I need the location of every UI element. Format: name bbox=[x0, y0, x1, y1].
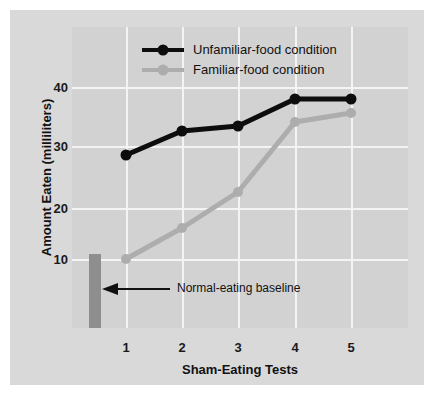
legend-item-familiar: Familiar-food condition bbox=[142, 62, 337, 77]
x-axis-tick-label: 5 bbox=[336, 340, 366, 355]
x-axis-tick-label: 4 bbox=[280, 340, 310, 355]
figure-panel: Amount Eaten (milliliters) 40 30 20 10 1… bbox=[10, 10, 424, 385]
x-axis-tick-label: 2 bbox=[167, 340, 197, 355]
x-axis-tick-label: 1 bbox=[111, 340, 141, 355]
legend-label-unfamiliar: Unfamiliar-food condition bbox=[193, 42, 337, 57]
y-axis-tick-label: 40 bbox=[28, 80, 68, 95]
legend: Unfamiliar-food condition Familiar-food … bbox=[142, 42, 337, 82]
x-axis-tick-label: 3 bbox=[223, 340, 253, 355]
legend-item-unfamiliar: Unfamiliar-food condition bbox=[142, 42, 337, 57]
y-axis-tick-label: 10 bbox=[28, 252, 68, 267]
legend-marker-familiar-icon bbox=[142, 63, 184, 77]
plot-area: Normal-eating baseline Unfamiliar-food c… bbox=[72, 27, 408, 328]
annotation-label-normal-eating-baseline: Normal-eating baseline bbox=[177, 281, 300, 295]
legend-marker-unfamiliar-icon bbox=[142, 43, 184, 57]
legend-label-familiar: Familiar-food condition bbox=[193, 62, 325, 77]
y-axis-tick-label: 20 bbox=[28, 201, 68, 216]
x-axis-title: Sham-Eating Tests bbox=[72, 362, 408, 377]
y-axis-tick-label: 30 bbox=[28, 139, 68, 154]
